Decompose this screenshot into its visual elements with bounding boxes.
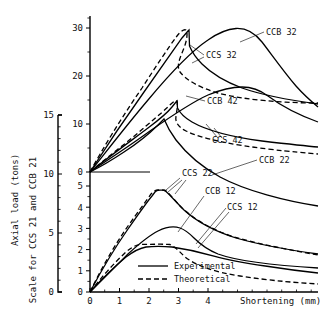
- ytick-lower-0: 0: [78, 287, 83, 297]
- legend-label-theoretical: Theoretical: [174, 274, 230, 284]
- label-ccb12: CCB 12: [205, 186, 236, 196]
- ytick-upper-10: 10: [72, 119, 83, 129]
- outer-ytick-10: 10: [43, 169, 54, 179]
- label-ccb32: CCB 32: [266, 27, 297, 37]
- label-ccb42: CCB 42: [207, 96, 238, 106]
- ytick-upper-0: 0: [78, 167, 83, 177]
- ytick-lower-1: 1: [78, 266, 83, 276]
- ytick-lower-3: 3: [78, 224, 83, 234]
- legend-label-experimental: Experimental: [174, 261, 235, 271]
- outer-ytick-15: 15: [43, 110, 54, 120]
- xtick-1: 1: [117, 296, 122, 306]
- label-ccs12: CCS 12: [227, 202, 258, 212]
- y-axis-title-outer: Scale for CCS 21 and CCB 21: [28, 157, 38, 303]
- x-axis-title: Shortening (mm): [240, 296, 321, 306]
- ytick-lower-5: 5: [78, 181, 83, 191]
- xtick-2: 2: [146, 296, 151, 306]
- label-ccb22: CCB 22: [259, 155, 290, 165]
- xtick-3: 3: [176, 296, 181, 306]
- y-axis-title-main: Axial load (tons): [10, 154, 20, 246]
- outer-ytick-5: 5: [49, 228, 54, 238]
- label-ccs32: CCS 32: [206, 50, 237, 60]
- outer-ytick-0: 0: [49, 287, 54, 297]
- ytick-lower-4: 4: [78, 203, 83, 213]
- ytick-lower-2: 2: [78, 245, 83, 255]
- xtick-4: 4: [205, 296, 210, 306]
- xtick-0: 0: [87, 296, 92, 306]
- ytick-upper-30: 30: [72, 23, 83, 33]
- label-ccs22: CCS 22: [182, 168, 213, 178]
- chart-figure: 0 5 10 15 Axial load (tons) Scale for CC…: [0, 0, 321, 326]
- ytick-upper-20: 20: [72, 71, 83, 81]
- chart-svg: 0 5 10 15 Axial load (tons) Scale for CC…: [0, 0, 321, 326]
